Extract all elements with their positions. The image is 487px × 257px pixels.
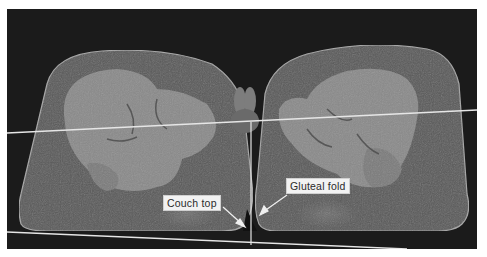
couch-top-label: Couch top xyxy=(163,195,221,211)
gluteal-fold-label: Gluteal fold xyxy=(286,178,350,194)
ct-image-frame: Couch top Gluteal fold xyxy=(7,9,477,249)
couch-line xyxy=(7,232,407,249)
ct-scan-image xyxy=(7,9,477,249)
right-thigh xyxy=(255,45,468,231)
